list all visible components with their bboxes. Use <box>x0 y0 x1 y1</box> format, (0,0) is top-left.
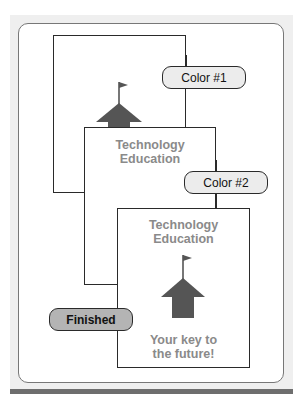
step-color-2: Color #2 <box>184 171 268 194</box>
step-label: Finished <box>66 313 115 327</box>
schoolhouse-icon <box>0 0 305 394</box>
step-label: Color #2 <box>203 176 248 190</box>
step-finished: Finished <box>49 308 133 331</box>
